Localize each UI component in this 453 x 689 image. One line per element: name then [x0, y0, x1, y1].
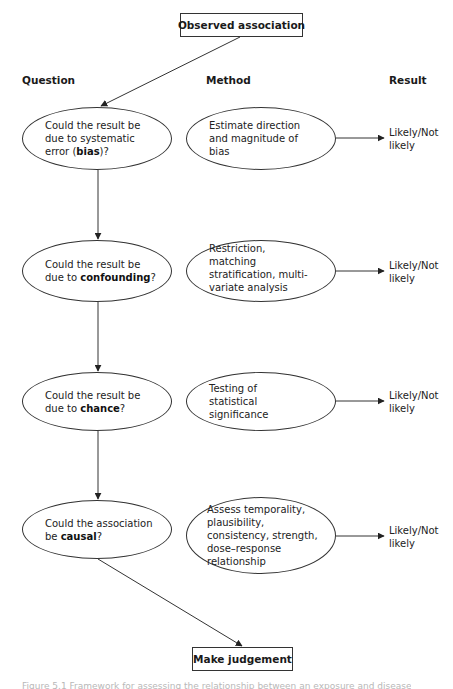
- arrow-start-to-bias: [101, 37, 240, 106]
- method-text-confounding: Restriction, matching stratification, mu…: [187, 242, 335, 294]
- question-text-causal: Could the association be causal?: [23, 517, 171, 543]
- keyword-chance: chance: [80, 403, 120, 414]
- end-node-make-judgement: Make judgement: [192, 647, 293, 671]
- figure-caption: Figure 5.1 Framework for assessing the r…: [22, 681, 411, 689]
- method-node-chance: Testing of statistical significance: [186, 372, 336, 431]
- question-node-bias: Could the result be due to systematic er…: [22, 107, 172, 170]
- method-node-bias: Estimate direction and magnitude of bias: [186, 107, 336, 170]
- keyword-confounding: confounding: [80, 272, 150, 283]
- question-node-confounding: Could the result be due to confounding?: [22, 240, 172, 302]
- question-text-bias: Could the result be due to systematic er…: [23, 119, 171, 158]
- method-text-bias: Estimate direction and magnitude of bias: [187, 119, 335, 158]
- column-header-result: Result: [389, 74, 427, 86]
- question-text-chance: Could the result be due to chance?: [23, 389, 171, 415]
- column-header-question: Question: [22, 74, 75, 86]
- method-text-causal: Assess temporality, plausibility, consis…: [187, 503, 335, 568]
- flowchart-diagram: Observed association Question Method Res…: [0, 0, 453, 689]
- question-node-chance: Could the result be due to chance?: [22, 372, 172, 431]
- result-chance: Likely/Not likely: [389, 389, 439, 415]
- method-text-chance: Testing of statistical significance: [187, 382, 335, 421]
- result-causal: Likely/Not likely: [389, 524, 439, 550]
- question-node-causal: Could the association be causal?: [22, 500, 172, 559]
- connector-lines: [0, 0, 453, 689]
- result-bias: Likely/Not likely: [389, 126, 439, 152]
- start-node-label: Observed association: [178, 19, 305, 31]
- method-node-confounding: Restriction, matching stratification, mu…: [186, 240, 336, 302]
- start-node-observed-association: Observed association: [180, 13, 303, 37]
- end-node-label: Make judgement: [193, 653, 292, 665]
- method-node-causal: Assess temporality, plausibility, consis…: [186, 497, 336, 574]
- column-header-method: Method: [206, 74, 251, 86]
- result-confounding: Likely/Not likely: [389, 259, 439, 285]
- keyword-bias: bias: [76, 146, 99, 157]
- question-text-confounding: Could the result be due to confounding?: [23, 258, 171, 284]
- keyword-causal: causal: [61, 531, 97, 542]
- arrow-causal-to-judgement: [98, 559, 242, 646]
